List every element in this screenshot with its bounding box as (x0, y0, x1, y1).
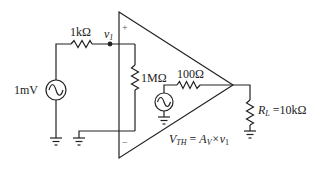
times-v1-sub: 1 (225, 138, 229, 147)
circuit-diagram (0, 0, 322, 172)
resistor-100 (177, 82, 200, 89)
node-v1-label: v1 (104, 28, 113, 42)
ground-icon-input (73, 138, 85, 145)
load-label: RL =10kΩ (258, 104, 306, 118)
load-value: =10kΩ (270, 103, 307, 117)
input-impedance-branch (79, 44, 139, 138)
input-source-branch (46, 41, 135, 139)
input-impedance-label: 1MΩ (141, 72, 167, 84)
load-branch (233, 85, 256, 138)
resistor-1M (132, 65, 139, 90)
resistor-load (247, 100, 254, 125)
vth-sub: TH (176, 138, 186, 147)
times-v1: ×v (212, 132, 225, 146)
source-label: 1mV (14, 84, 38, 96)
vth-eq: = (187, 132, 200, 146)
minus-sign: − (122, 138, 128, 148)
input-resistor-label: 1kΩ (70, 26, 91, 38)
ground-icon-load (244, 131, 256, 138)
output-resistor-label: 100Ω (177, 68, 204, 80)
ground-icon-source (50, 138, 62, 145)
thevenin-source-branch (155, 82, 233, 125)
node-v1-sub: 1 (109, 33, 113, 42)
node-v1-dot (108, 42, 112, 46)
av-name: A (199, 132, 206, 146)
ground-icon-thevenin (158, 117, 170, 124)
resistor-1k (71, 41, 92, 48)
plus-sign: + (122, 23, 128, 33)
thevenin-equation: VTH = AV×v1 (169, 133, 229, 147)
